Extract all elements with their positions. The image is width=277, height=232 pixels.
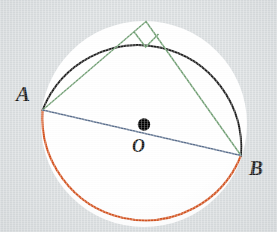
center-label-o: O [132, 137, 145, 155]
center-point-dot [138, 118, 150, 130]
geometry-canvas [0, 0, 277, 232]
point-label-a: A [16, 84, 30, 105]
point-label-b: B [249, 158, 263, 179]
circle-geometry-figure: A B O [0, 0, 277, 232]
